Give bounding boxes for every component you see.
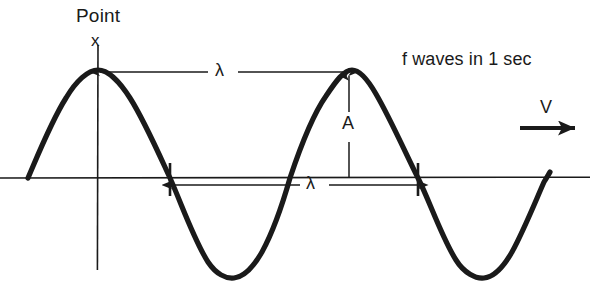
frequency-note-label: f waves in 1 sec — [402, 50, 532, 68]
amplitude-label: A — [342, 114, 354, 132]
wave-diagram-figure: Point x λ λ A f waves in 1 sec V — [0, 0, 602, 296]
vertical-axis-line — [97, 45, 98, 270]
horizontal-axis-line — [0, 177, 590, 178]
sine-wave-curve — [28, 70, 550, 278]
point-label: Point — [76, 6, 120, 25]
velocity-label: V — [540, 98, 552, 116]
x-axis-label: x — [91, 32, 100, 49]
wavelength-top-label: λ — [215, 61, 224, 79]
wavelength-bottom-label: λ — [306, 174, 315, 192]
